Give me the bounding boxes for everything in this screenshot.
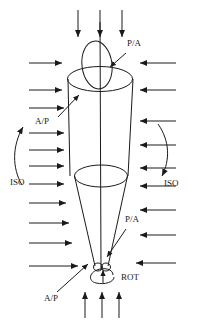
rot-loop-path bbox=[90, 269, 114, 284]
cone-left-edge bbox=[75, 176, 96, 266]
ap-bottom-leader-line bbox=[57, 264, 88, 292]
label-iso-right: ISO bbox=[164, 178, 179, 188]
bottom-up-arrow-group bbox=[85, 292, 119, 318]
biomechanics-force-diagram: P/A A/P ISO ISO P/A A/P ROT bbox=[0, 0, 201, 326]
label-pa-lower: P/A bbox=[125, 214, 140, 224]
central-axis-line bbox=[100, 22, 101, 270]
top-down-arrow-group bbox=[78, 10, 122, 37]
left-inward-arrow-group bbox=[29, 63, 78, 266]
right-inward-arrow-group bbox=[136, 63, 176, 263]
figure-canvas: P/A A/P ISO ISO P/A A/P ROT bbox=[0, 0, 201, 326]
label-ap-bottom: A/P bbox=[44, 293, 58, 303]
cylinder-right-edge bbox=[128, 79, 133, 176]
label-ap-upper: A/P bbox=[35, 116, 49, 126]
label-pa-top: P/A bbox=[127, 38, 142, 48]
cylinder-left-edge bbox=[68, 79, 70, 176]
pa-top-leader-line bbox=[110, 53, 126, 67]
pa-lower-leader-line bbox=[107, 229, 126, 257]
tilted-top-ellipse bbox=[79, 39, 115, 90]
label-rot: ROT bbox=[121, 272, 140, 282]
label-iso-left: ISO bbox=[10, 177, 25, 187]
